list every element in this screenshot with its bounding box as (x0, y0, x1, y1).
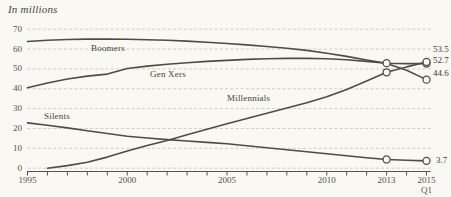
marker-circle (423, 58, 430, 65)
end-value-gen-xers: 52.7 (433, 55, 449, 65)
x-tick-label: 2000 (110, 175, 144, 185)
series-line-gen-xers (28, 58, 427, 87)
chart-container: In millions Boomers Gen Xers Millennials… (0, 0, 451, 197)
series-label-gen-xers: Gen Xers (150, 69, 186, 79)
x-tick-sublabel: Q1 (410, 185, 444, 195)
marker-circle (423, 157, 430, 164)
series-label-millennials: Millennials (227, 93, 270, 103)
end-value-silents: 3.7 (436, 155, 447, 165)
end-value-millennials: 53.5 (433, 44, 449, 54)
x-tick-label: 2015 (410, 175, 444, 185)
x-tick-label: 2010 (310, 175, 344, 185)
y-tick-label: 20 (0, 123, 22, 133)
y-tick-label: 10 (0, 143, 22, 153)
y-tick-label: 70 (0, 24, 22, 34)
series-label-boomers: Boomers (91, 43, 125, 53)
end-value-boomers: 44.6 (433, 68, 449, 78)
x-tick-label: 2013 (370, 175, 404, 185)
series-line-millennials (48, 62, 427, 168)
marker-circle (383, 60, 390, 67)
y-tick-label: 40 (0, 83, 22, 93)
marker-circle (383, 69, 390, 76)
chart-canvas (0, 0, 451, 197)
y-tick-label: 50 (0, 63, 22, 73)
y-tick-label: 60 (0, 44, 22, 54)
y-tick-label: 0 (0, 163, 22, 173)
marker-circle (383, 156, 390, 163)
y-tick-label: 30 (0, 103, 22, 113)
marker-circle (423, 76, 430, 83)
series-line-boomers (28, 39, 427, 80)
x-tick-label: 2005 (210, 175, 244, 185)
series-label-silents: Silents (44, 111, 70, 121)
x-tick-label: 1995 (11, 175, 45, 185)
